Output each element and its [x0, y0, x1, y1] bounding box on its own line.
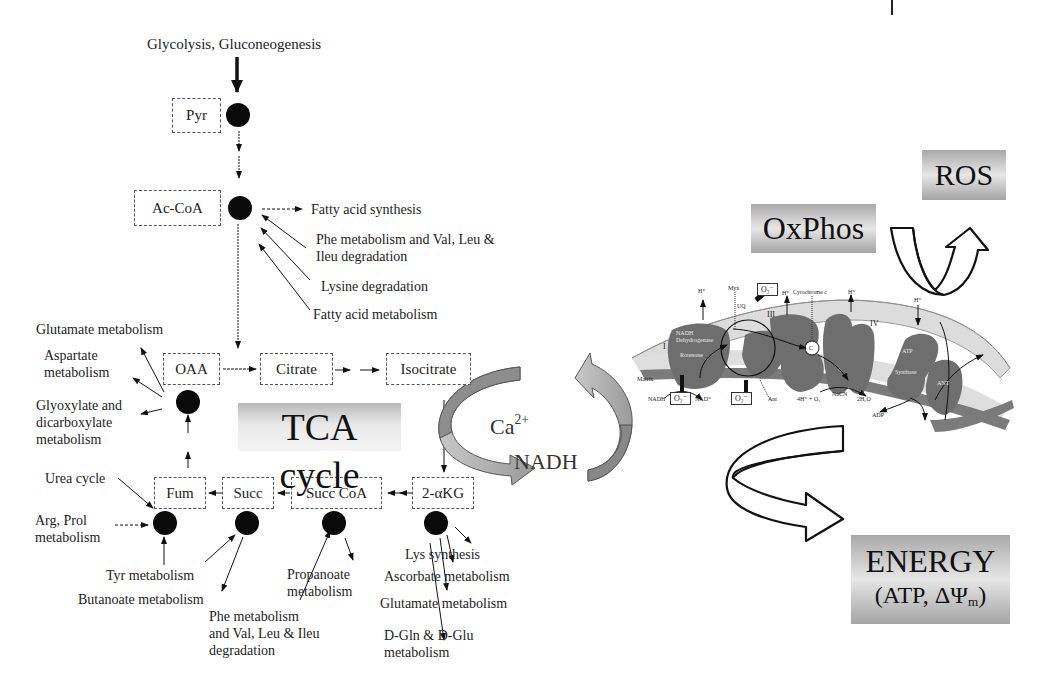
- label-fatty-acid-synthesis: Fatty acid synthesis: [311, 201, 421, 218]
- node-oaa: OAA: [163, 353, 220, 385]
- etc-rotenone-label: Rotenone: [680, 352, 703, 359]
- accoa-dot: [228, 196, 252, 220]
- label-urea-cycle: Urea cycle: [45, 470, 105, 487]
- label-aspartate-metabolism: Aspartate metabolism: [44, 347, 109, 381]
- label-arg-prol-metabolism: Arg, Prol metabolism: [35, 512, 100, 546]
- etc-o2-box-top: O₂⁻: [757, 283, 778, 296]
- calcium-label: Ca2+: [490, 408, 529, 439]
- energy-subtitle: (ATP, ΔΨm): [851, 579, 1010, 618]
- etc-atp-label: ATP: [902, 348, 913, 355]
- ros-arrow: [891, 228, 988, 295]
- etc-adp-label: ADP: [872, 412, 884, 419]
- etc-nadh-label: NADH: [648, 396, 665, 403]
- ros-title: ROS: [922, 150, 1006, 200]
- oxphos-title: OxPhos: [751, 204, 876, 253]
- node-succ: Succ: [222, 477, 274, 509]
- label-dgln-dglu-metabolism: D-Gln & D-Glu metabolism: [384, 627, 473, 661]
- etc-cytochrome-c-circle-label: C: [809, 345, 813, 352]
- oaa-dot: [176, 390, 200, 414]
- etc-water-label: 2H₂O: [857, 396, 871, 403]
- etc-uq-label: UQ: [737, 303, 746, 310]
- succ-dot: [235, 511, 259, 535]
- akg-dot: [424, 511, 448, 535]
- label-propanoate-metabolism: Propanoate metabolism: [287, 566, 352, 600]
- node-akg: 2-αKG: [412, 477, 474, 509]
- energy-title: ENERGY: [851, 543, 1010, 579]
- etc-myx-label: Myx: [728, 285, 739, 292]
- calcium-cycle-arrow-right: [575, 353, 632, 481]
- etc-complex-iii-label: III: [767, 311, 775, 318]
- etc-ant-label: Ant: [768, 396, 777, 403]
- etc-ant-box-label: ANT: [937, 380, 949, 387]
- fum-dot: [153, 511, 177, 535]
- label-glutamate-metabolism-akg: Glutamate metabolism: [380, 595, 507, 612]
- etc-h-plus-2: H⁺: [782, 290, 790, 297]
- label-lysine-degradation: Lysine degradation: [321, 278, 428, 295]
- succcoa-dot: [322, 511, 346, 535]
- label-ascorbate-metabolism: Ascorbate metabolism: [384, 568, 510, 585]
- etc-nad-plus-label: NAD⁺: [695, 396, 711, 403]
- etc-complex-i-label: I: [663, 343, 666, 350]
- node-citrate: Citrate: [260, 353, 333, 385]
- node-accoa: Ac-CoA: [134, 190, 221, 226]
- label-butanoate-metabolism: Butanoate metabolism: [78, 591, 204, 608]
- etc-cytochrome-c-label: Cytochrome c: [793, 289, 827, 296]
- label-lys-synthesis: Lys synthesis: [405, 546, 480, 563]
- metabolism-diagram: Glycolysis, Gluconeogenesis Pyr Ac-CoA O…: [0, 0, 1044, 686]
- nadh-label: NADH: [514, 450, 578, 474]
- label-phe-val-leu-degradation: Phe metabolism and Val, Leu & Ileu degra…: [316, 231, 495, 265]
- tca-cycle-title: TCA cycle: [238, 403, 401, 451]
- energy-arrow: [727, 426, 843, 541]
- pyr-dot: [226, 103, 250, 127]
- etc-h-plus-4: H⁺: [914, 297, 922, 304]
- label-glutamate-metabolism-oaa: Glutamate metabolism: [36, 321, 163, 338]
- etc-synthase-label: Synthase: [895, 369, 917, 376]
- etc-o2-box-left: O₂⁻: [670, 392, 691, 405]
- etc-water-equation-label: 4H⁺ + O₂: [797, 396, 820, 403]
- energy-box: ENERGY (ATP, ΔΨm): [851, 535, 1010, 624]
- label-phe-val-leu-ileu-degradation: Phe metabolism and Val, Leu & Ileu degra…: [209, 608, 320, 659]
- label-glyoxylate-dicarboxylate-metabolism: Glyoxylate and dicarboxylate metabolism: [36, 397, 122, 448]
- etc-h-plus-3: H⁺: [848, 289, 856, 296]
- etc-complex-iv-label: IV: [870, 320, 878, 327]
- glycolysis-label: Glycolysis, Gluconeogenesis: [147, 36, 321, 53]
- label-tyr-metabolism: Tyr metabolism: [106, 567, 194, 584]
- label-fatty-acid-metabolism: Fatty acid metabolism: [313, 306, 437, 323]
- etc-o2-box-mid: O₂⁻: [731, 392, 752, 405]
- node-pyr: Pyr: [172, 98, 221, 133]
- etc-nadh-dehydrogenase-label: NADH Dehydrogenase: [676, 330, 713, 344]
- electron-transport-chain-illustration: [632, 287, 1014, 432]
- etc-matrix-label: Matrix: [637, 376, 653, 383]
- node-fum: Fum: [154, 477, 206, 509]
- node-isocitrate: Isocitrate: [386, 353, 471, 385]
- etc-nacn-label: NaCN: [832, 391, 847, 398]
- etc-h-plus-1: H⁺: [698, 288, 706, 295]
